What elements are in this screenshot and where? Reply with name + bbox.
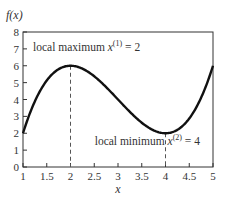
x-tick-label: 5 — [210, 170, 216, 182]
x-tick-label: 4.5 — [182, 170, 196, 182]
y-tick-label: 5 — [14, 77, 20, 89]
y-tick-label: 7 — [14, 43, 20, 55]
y-tick-label: 0 — [14, 161, 20, 173]
x-tick-label: 2 — [68, 170, 74, 182]
y-tick-label: 2 — [14, 127, 20, 139]
x-tick-label: 1.5 — [40, 170, 54, 182]
annotation-label: local maximum x(1) = 2 — [33, 39, 140, 53]
chart: f(x) 012345678 11.522.533.544.55 local m… — [0, 0, 226, 201]
x-axis-label: x — [114, 182, 121, 196]
reference-lines — [71, 66, 166, 167]
x-tick-label: 1 — [20, 170, 26, 182]
annotation-label: local minimum x(2) = 4 — [95, 133, 201, 147]
x-tick-label: 2.5 — [87, 170, 101, 182]
x-tick-label: 4 — [163, 170, 169, 182]
x-tick-label: 3.5 — [135, 170, 149, 182]
y-ticks: 012345678 — [14, 26, 28, 173]
y-tick-label: 1 — [14, 144, 20, 156]
y-tick-label: 4 — [14, 94, 20, 106]
function-curve — [23, 66, 213, 134]
x-tick-label: 3 — [115, 170, 121, 182]
y-tick-label: 6 — [14, 60, 20, 72]
y-axis-label: f(x) — [6, 8, 23, 22]
y-tick-label: 8 — [14, 26, 20, 38]
y-tick-label: 3 — [14, 110, 20, 122]
x-ticks: 11.522.533.544.55 — [20, 163, 216, 182]
